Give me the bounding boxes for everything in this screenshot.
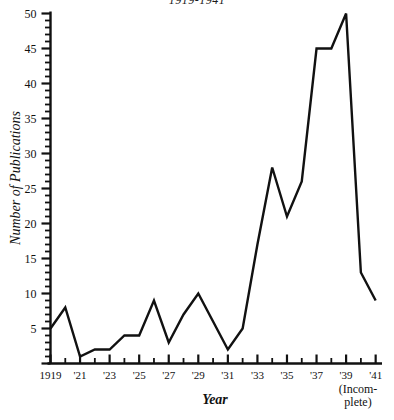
y-tick-label-15: 15: [3, 253, 37, 265]
x-tick-label-1941: '41: [366, 370, 386, 381]
x-tick-label-1921: '21: [70, 370, 90, 381]
incomplete-annotation: (Incom- plete): [322, 383, 394, 409]
y-tick-label-10: 10: [3, 288, 37, 300]
x-tick-label-1927: '27: [159, 370, 179, 381]
x-tick-label-1931: '31: [218, 370, 238, 381]
x-tick-label-1937: '37: [307, 370, 327, 381]
x-tick-label-1939: '39: [336, 370, 356, 381]
x-tick-label-1925: '25: [129, 370, 149, 381]
plot-area: [0, 0, 394, 420]
y-tick-label-5: 5: [3, 323, 37, 335]
x-tick-label-1933: '33: [247, 370, 267, 381]
publications-line-chart: 1919-1941 Number of Publications Year 50…: [0, 0, 394, 420]
chart-title: 1919-1941: [0, 0, 394, 8]
data-series-line: [51, 14, 376, 357]
y-tick-label-25: 25: [3, 183, 37, 195]
axis-lines: [48, 12, 383, 364]
x-axis-ticks: [51, 355, 376, 364]
y-tick-label-40: 40: [3, 78, 37, 90]
y-tick-label-50: 50: [3, 8, 37, 20]
y-tick-label-20: 20: [3, 218, 37, 230]
x-tick-label-1935: '35: [277, 370, 297, 381]
y-tick-label-30: 30: [3, 148, 37, 160]
x-axis-title: Year: [140, 392, 290, 408]
x-tick-label-1923: '23: [100, 370, 120, 381]
y-axis-ticks: [42, 14, 51, 364]
y-axis-title: Number of Publications: [8, 78, 24, 278]
x-tick-label-1919: 1919: [36, 370, 66, 381]
x-tick-label-1929: '29: [188, 370, 208, 381]
y-tick-label-45: 45: [3, 43, 37, 55]
incomplete-line-2: plete): [322, 396, 394, 409]
y-tick-label-35: 35: [3, 113, 37, 125]
